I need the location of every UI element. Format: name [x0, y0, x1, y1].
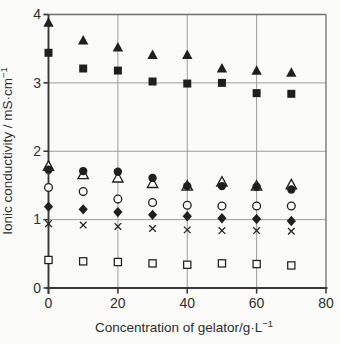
- point-filled-circle-x70: [287, 185, 295, 193]
- chart-svg: 01234020406080Concentration of gelator/g…: [0, 0, 340, 344]
- point-filled-triangle-x60: [251, 65, 261, 75]
- point-filled-circle-x0: [44, 166, 52, 174]
- x-axis-title: Concentration of gelator/g·L−1: [95, 318, 273, 335]
- y-tick-label-4: 4: [33, 6, 41, 22]
- point-filled-circle-x30: [148, 174, 156, 182]
- point-filled-square-x20: [114, 67, 122, 75]
- point-filled-square-x50: [218, 79, 226, 87]
- point-filled-square-x70: [287, 90, 295, 98]
- point-filled-diamond-x20: [113, 207, 122, 217]
- point-filled-circle-x40: [183, 182, 191, 190]
- point-open-circle-x10: [79, 188, 87, 196]
- point-open-square-x40: [184, 261, 191, 268]
- y-tick-label-2: 2: [33, 143, 41, 159]
- point-filled-triangle-x10: [78, 35, 88, 45]
- point-filled-triangle-x20: [113, 42, 123, 52]
- point-filled-triangle-x30: [147, 49, 157, 59]
- point-open-square-x70: [288, 262, 295, 269]
- x-tick-label-40: 40: [179, 295, 195, 311]
- y-tick-label-1: 1: [33, 211, 41, 227]
- x-tick-label-60: 60: [249, 295, 265, 311]
- point-open-square-x50: [218, 260, 225, 267]
- figure-ionic-conductivity-chart: 01234020406080Concentration of gelator/g…: [0, 0, 340, 344]
- point-filled-triangle-x0: [43, 17, 53, 27]
- point-filled-diamond-x60: [252, 214, 261, 224]
- point-open-circle-x60: [253, 202, 261, 210]
- point-open-circle-x40: [183, 201, 191, 209]
- point-open-circle-x30: [149, 199, 157, 207]
- point-filled-diamond-x30: [148, 210, 157, 220]
- point-open-circle-x70: [287, 202, 295, 210]
- point-open-square-x0: [45, 256, 52, 263]
- x-tick-label-80: 80: [318, 295, 334, 311]
- point-filled-square-x30: [149, 78, 157, 86]
- point-filled-square-x0: [45, 49, 53, 57]
- point-filled-circle-x50: [218, 182, 226, 190]
- point-filled-diamond-x50: [217, 213, 226, 223]
- series-open-square: [45, 256, 295, 269]
- point-open-circle-x50: [218, 202, 226, 210]
- point-open-circle-x0: [45, 184, 53, 192]
- point-filled-triangle-x40: [182, 49, 192, 59]
- point-filled-circle-x20: [114, 168, 122, 176]
- point-filled-diamond-x0: [44, 201, 53, 211]
- point-filled-square-x40: [183, 80, 191, 88]
- y-tick-label-0: 0: [33, 280, 41, 296]
- point-filled-square-x10: [79, 65, 87, 73]
- y-axis-title: Ionic conductivity / mS·cm−1: [0, 67, 15, 235]
- point-filled-triangle-x70: [286, 67, 296, 77]
- point-filled-triangle-x50: [217, 63, 227, 73]
- point-open-circle-x20: [114, 195, 122, 203]
- point-open-square-x20: [114, 258, 121, 265]
- point-filled-circle-x60: [252, 183, 260, 191]
- point-filled-diamond-x10: [79, 204, 88, 214]
- point-open-square-x60: [253, 260, 260, 267]
- y-tick-label-3: 3: [33, 75, 41, 91]
- point-filled-circle-x10: [79, 167, 87, 175]
- point-open-square-x10: [80, 258, 87, 265]
- point-filled-square-x60: [253, 89, 261, 97]
- point-filled-diamond-x70: [287, 216, 296, 226]
- x-tick-label-0: 0: [45, 295, 53, 311]
- point-open-square-x30: [149, 260, 156, 267]
- x-tick-label-20: 20: [110, 295, 126, 311]
